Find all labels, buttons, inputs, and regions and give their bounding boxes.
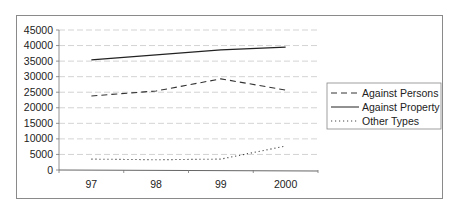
y-tick-label: 5000 <box>30 148 54 160</box>
x-tick-labels: 9798992000 <box>86 178 298 190</box>
y-tick-label: 20000 <box>24 101 53 113</box>
series-line-other-types <box>91 146 285 160</box>
y-tick-label: 45000 <box>24 24 53 36</box>
series-line-against-property <box>91 47 285 60</box>
series-line-against-persons <box>91 79 285 96</box>
y-tick-label: 40000 <box>24 39 53 51</box>
legend-label: Against Property <box>362 101 440 113</box>
y-tick-label: 35000 <box>24 55 53 67</box>
series-lines <box>91 47 285 160</box>
y-tick-label: 0 <box>47 164 53 176</box>
y-tick-label: 10000 <box>24 132 53 144</box>
legend: Against PersonsAgainst PropertyOther Typ… <box>327 83 441 129</box>
legend-label: Other Types <box>362 115 419 127</box>
legend-label: Against Persons <box>362 87 438 99</box>
x-tick-label: 2000 <box>274 178 298 190</box>
y-tick-label: 15000 <box>24 117 53 129</box>
y-tick-label: 25000 <box>24 86 53 98</box>
x-tick-label: 98 <box>150 178 162 190</box>
x-tick-label: 97 <box>86 178 98 190</box>
axes <box>56 30 318 173</box>
line-chart: 0500010000150002000025000300003500040000… <box>0 0 460 215</box>
x-tick-label: 99 <box>215 178 227 190</box>
y-tick-label: 30000 <box>24 70 53 82</box>
gridlines <box>59 30 318 154</box>
y-tick-labels: 0500010000150002000025000300003500040000… <box>24 24 53 176</box>
